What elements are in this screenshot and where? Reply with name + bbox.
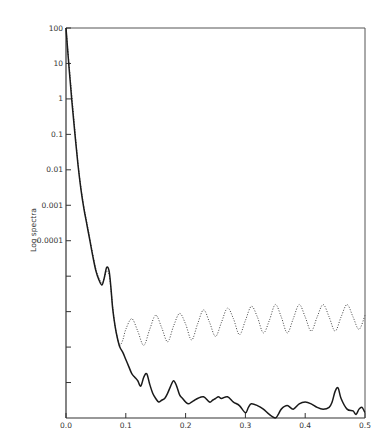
x-tick-label: 0.0: [60, 421, 72, 430]
y-tick-label: 10: [53, 59, 63, 68]
y-axis-title: Log spectra: [29, 208, 38, 252]
y-tick-label: 0.01: [46, 165, 63, 174]
x-tick-label: 0.3: [239, 421, 251, 430]
series-line-dotted: [66, 28, 365, 345]
y-tick-label: 1: [58, 94, 63, 103]
x-tick-label: 0.5: [359, 421, 371, 430]
series-group: [66, 28, 365, 418]
y-tick-label: 100: [49, 24, 64, 33]
x-tick-label: 0.4: [299, 421, 311, 430]
x-ticks: 0.00.10.20.30.40.5: [60, 413, 371, 430]
x-tick-label: 0.1: [120, 421, 132, 430]
plot-frame: [66, 28, 365, 418]
x-tick-label: 0.2: [180, 421, 192, 430]
series-line-solid: [66, 28, 365, 418]
y-tick-label: 0.1: [51, 130, 63, 139]
y-tick-label: 0.0001: [37, 236, 63, 245]
log-spectra-chart: 1001010.10.010.0010.0001 0.00.10.20.30.4…: [0, 0, 389, 447]
y-tick-label: 0.001: [42, 201, 64, 210]
